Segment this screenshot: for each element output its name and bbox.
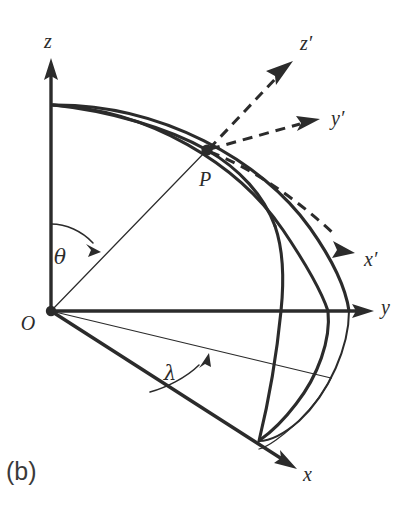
axis-z-prime-dashed	[209, 61, 293, 149]
axis-x	[51, 311, 297, 469]
axis-label-x: x	[302, 463, 312, 485]
meridian-middle	[53, 105, 328, 440]
point-marker-O	[46, 306, 56, 316]
angle-label-lambda: λ	[163, 361, 177, 385]
panel-label: (b)	[6, 457, 37, 485]
point-label-O: O	[21, 312, 35, 334]
axis-label-z: z	[43, 30, 52, 52]
axis-label-y-prime: y′	[329, 107, 345, 130]
axis-z	[44, 58, 58, 311]
equatorial-projection-line	[51, 311, 331, 378]
spherical-coordinates-figure: z y x z′ y′ x′ O P θ λ (b)	[0, 0, 414, 508]
point-marker-P	[201, 144, 212, 155]
angle-lambda-marker	[150, 353, 211, 392]
point-label-P: P	[198, 168, 211, 190]
axis-label-y: y	[379, 296, 390, 319]
angle-label-theta: θ	[54, 245, 66, 269]
axis-label-x-prime: x′	[363, 248, 378, 270]
radius-OP	[51, 151, 206, 311]
diagram-canvas: z y x z′ y′ x′ O P θ λ (b)	[0, 0, 414, 508]
axis-label-z-prime: z′	[299, 32, 313, 54]
